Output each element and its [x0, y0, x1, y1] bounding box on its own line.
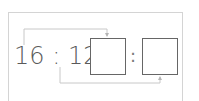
ratio-colon: : — [52, 42, 60, 70]
answer-box-2[interactable] — [142, 38, 178, 75]
answer-colon: : — [130, 45, 136, 67]
answer-box-1[interactable] — [90, 38, 126, 75]
left-term: 16 — [14, 42, 45, 70]
